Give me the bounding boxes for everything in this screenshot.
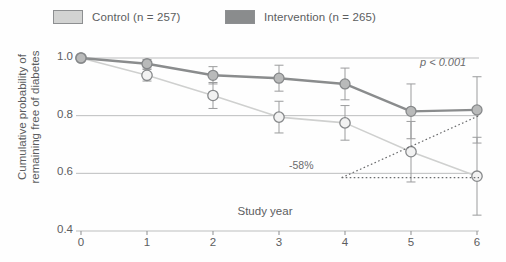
x-axis-title: Study year: [205, 205, 325, 217]
pvalue-annotation: p < 0.001: [420, 56, 466, 68]
data-point-intervention: [340, 79, 350, 89]
plot-area: 1.00.80.60.4 0123456 Cumulative probabil…: [0, 0, 506, 262]
y-axis-title: Cumulative probability of remaining free…: [16, 37, 42, 197]
data-point-control: [472, 171, 482, 181]
x-tick-label: 5: [401, 236, 421, 248]
data-point-control: [208, 90, 218, 100]
data-point-intervention: [208, 70, 218, 80]
y-tick-label: 0.8: [45, 108, 73, 120]
data-point-intervention: [472, 105, 482, 115]
series-layer: [76, 53, 482, 215]
x-tick-label: 6: [467, 236, 487, 248]
x-tick-label: 1: [137, 236, 157, 248]
axis-ticks: [81, 231, 477, 235]
data-point-intervention: [406, 106, 416, 116]
y-tick-label: 0.4: [45, 223, 73, 235]
y-tick-label: 1.0: [45, 50, 73, 62]
x-tick-label: 4: [335, 236, 355, 248]
x-tick-label: 2: [203, 236, 223, 248]
x-tick-label: 0: [71, 236, 91, 248]
x-tick-label: 3: [269, 236, 289, 248]
data-point-control: [142, 70, 152, 80]
data-point-intervention: [142, 59, 152, 69]
chart-svg: [0, 0, 506, 262]
reduction-annotation: -58%: [289, 159, 314, 171]
y-tick-label: 0.6: [45, 165, 73, 177]
data-point-control: [274, 112, 284, 122]
data-point-intervention: [76, 53, 86, 63]
figure-root: Control (n = 257) Intervention (n = 265)…: [0, 0, 506, 262]
data-point-intervention: [274, 73, 284, 83]
data-point-control: [340, 118, 350, 128]
